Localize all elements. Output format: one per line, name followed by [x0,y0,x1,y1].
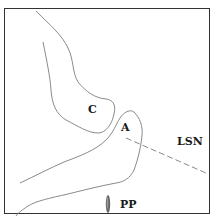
structure-a-lower-outline [16,183,116,216]
label-c: C [88,104,97,115]
diagram-canvas [0,0,217,224]
label-a: A [121,122,130,133]
label-pp: PP [120,199,137,210]
label-lsn: LSN [177,136,203,147]
pp-marker-highlight [107,197,109,209]
structure-c-outline [36,11,115,133]
